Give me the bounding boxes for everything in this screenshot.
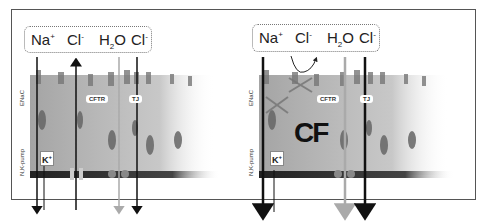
enac-label: ENaC xyxy=(19,90,25,106)
pump-bead xyxy=(334,170,342,178)
channel-bar xyxy=(70,168,74,180)
cf-label: CF xyxy=(294,117,327,149)
ion-h2o: H2O xyxy=(99,31,126,51)
ion-na: Na+ xyxy=(259,29,283,46)
tj-label: TJ xyxy=(360,95,373,103)
lumen-box-normal: Na+ Cl- H2O Cl- xyxy=(24,26,152,53)
ion-h2o: H2O xyxy=(327,29,354,49)
ion-cl: Cl- xyxy=(295,29,312,46)
k-label: K+ xyxy=(40,151,54,166)
cell-layer xyxy=(30,75,215,175)
pump-bead xyxy=(121,170,129,178)
basal-membrane xyxy=(259,171,454,178)
pump-label: N,K-pump xyxy=(248,149,254,176)
panel-normal: Na+ Cl- H2O Cl- ENaC N,K-pump CFTR TJ K+ xyxy=(0,0,244,224)
pump-bead xyxy=(108,170,116,178)
ion-cl-2: Cl- xyxy=(359,29,376,46)
tj-label: TJ xyxy=(129,95,142,103)
cftr-label: CFTR xyxy=(86,95,108,103)
ion-cl-2: Cl- xyxy=(131,31,148,48)
cftr-label: CFTR xyxy=(317,95,339,103)
ion-na: Na+ xyxy=(31,31,55,48)
channel-bar xyxy=(79,168,83,180)
pump-label: N,K-pump xyxy=(19,149,25,176)
pump-bead xyxy=(347,170,355,178)
enac-label: ENaC xyxy=(248,90,254,106)
blocked-cl-curved-arrow xyxy=(291,56,316,72)
cell-layer xyxy=(259,75,449,175)
k-label: K+ xyxy=(270,151,284,166)
lumen-box-cf: Na+ Cl- H2O Cl- xyxy=(252,24,380,52)
panel-cf: Na+ Cl- H2O Cl- ENaC N,K-pump CFTR TJ K+… xyxy=(244,0,488,224)
ion-cl: Cl- xyxy=(67,31,84,48)
